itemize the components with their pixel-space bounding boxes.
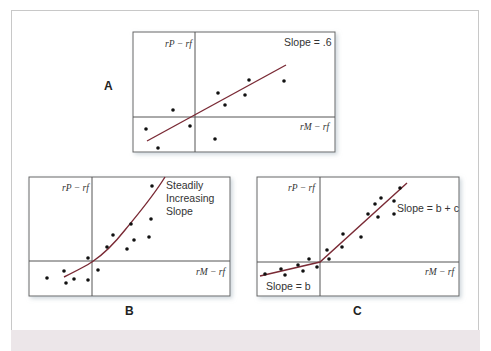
panel-c-label: C xyxy=(353,304,362,318)
panel-c-lower-slope-annotation: Slope = b xyxy=(266,280,311,292)
panel-a-slope-annotation: Slope = .6 xyxy=(284,36,332,48)
panel-c: rP − rf rM − rf Slope = b + c Slope = b xyxy=(257,177,459,296)
panel-b: rP − rf rM − rf Steadily Increasing Slop… xyxy=(29,177,230,296)
panel-b-annotation-line-1: Steadily xyxy=(166,179,204,191)
panel-b-x-axis-label: rM − rf xyxy=(196,267,226,277)
panel-a-x-axis-label: rM − rf xyxy=(300,122,330,132)
panel-b-annotation-line-2: Increasing xyxy=(166,192,215,204)
panel-a-label: A xyxy=(104,79,113,93)
panel-c-y-axis-label: rP − rf xyxy=(288,183,316,193)
panel-b-label: B xyxy=(125,304,134,318)
panel-c-x-axis-label: rM − rf xyxy=(425,267,455,277)
characteristic-lines-figure: rP − rf rM − rf Slope = .6 rP − rf rM − … xyxy=(0,0,491,351)
panel-a-y-axis-label: rP − rf xyxy=(165,39,193,49)
panel-b-annotation-line-3: Slope xyxy=(166,205,193,217)
panel-c-box xyxy=(257,177,459,296)
panel-a: rP − rf rM − rf Slope = .6 xyxy=(133,32,335,152)
panel-c-upper-slope-annotation: Slope = b + c xyxy=(397,202,459,214)
panel-b-y-axis-label: rP − rf xyxy=(62,183,90,193)
panel-a-box xyxy=(133,32,335,152)
